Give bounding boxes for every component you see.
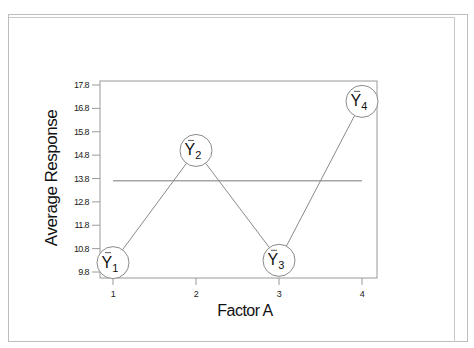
y-tick-label: 17.8	[74, 80, 90, 90]
y-tick-label: 16.8	[74, 103, 90, 113]
data-point-marker: Y1	[97, 247, 129, 279]
y-axis-title: Average Response	[42, 110, 61, 246]
y-tick-label: 14.8	[74, 150, 90, 160]
y-tick-label: 9.8	[78, 267, 89, 277]
x-tick-label: 2	[194, 289, 199, 299]
x-tick-label: 1	[111, 289, 116, 299]
plot-frame	[100, 81, 377, 278]
y-tick-label: 15.8	[74, 127, 90, 137]
x-axis-ticks: 1234	[111, 278, 365, 299]
series-segment	[123, 163, 187, 249]
x-tick-label: 3	[277, 289, 282, 299]
line-chart: 9.810.811.812.813.814.815.816.817.8 1234…	[0, 0, 474, 348]
y-tick-label: 10.8	[74, 244, 90, 254]
x-axis-title: Factor A	[217, 302, 273, 319]
data-point-marker: Y3	[263, 244, 295, 276]
data-series	[123, 116, 355, 250]
plot-area-border	[100, 81, 377, 278]
data-points: Y1Y2Y3Y4	[97, 85, 378, 278]
y-axis-ticks: 9.810.811.812.813.814.815.816.817.8	[74, 80, 100, 277]
y-tick-label: 12.8	[74, 197, 90, 207]
y-tick-label: 13.8	[74, 174, 90, 184]
data-point-marker: Y2	[180, 134, 212, 166]
data-point-marker: Y4	[346, 85, 378, 117]
x-tick-label: 4	[360, 289, 365, 299]
y-tick-label: 11.8	[75, 220, 90, 230]
series-segment	[206, 163, 270, 247]
